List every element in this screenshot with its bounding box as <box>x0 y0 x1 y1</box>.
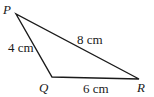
vertex-label-q: Q <box>39 80 49 95</box>
side-label-pr: 8 cm <box>77 32 103 47</box>
vertex-label-r: R <box>136 80 145 95</box>
vertex-label-p: P <box>2 2 11 17</box>
side-label-pq: 4 cm <box>8 40 34 55</box>
side-label-qr: 6 cm <box>83 81 109 96</box>
triangle-diagram: P Q R 8 cm 4 cm 6 cm <box>0 0 154 97</box>
